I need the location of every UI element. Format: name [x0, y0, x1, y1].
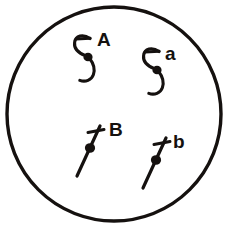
marker-b: b: [143, 131, 185, 188]
marker-B: B: [77, 119, 123, 176]
marker-b-label: b: [173, 131, 185, 152]
marker-A-lower-hook: [80, 59, 94, 81]
figure-canvas: A a B b: [0, 0, 226, 228]
marker-a-lower-hook: [149, 72, 163, 94]
diagram-svg: A a B b: [0, 0, 226, 228]
marker-A: A: [75, 29, 111, 81]
marker-a-dot: [152, 66, 161, 75]
marker-A-label: A: [97, 29, 111, 50]
marker-b-dot: [151, 155, 161, 165]
outer-circle: [7, 7, 221, 221]
marker-B-cross-stroke: [88, 130, 104, 133]
marker-A-dot: [83, 53, 92, 62]
marker-a: a: [144, 43, 176, 94]
marker-b-cross-stroke: [154, 142, 170, 145]
marker-B-label: B: [109, 119, 123, 140]
marker-B-dot: [85, 143, 95, 153]
marker-a-label: a: [165, 43, 176, 64]
